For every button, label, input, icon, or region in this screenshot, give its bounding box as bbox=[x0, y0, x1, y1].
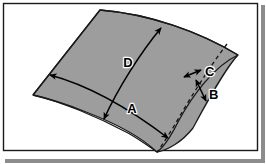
dimension-D-label: D bbox=[123, 55, 132, 70]
dimension-B-label: B bbox=[209, 87, 218, 102]
figure-container: A D C B bbox=[0, 0, 266, 164]
panel-dimension-diagram: A D C B bbox=[0, 0, 266, 164]
dimension-A-label: A bbox=[127, 101, 137, 116]
dimension-C-label: C bbox=[205, 64, 215, 79]
